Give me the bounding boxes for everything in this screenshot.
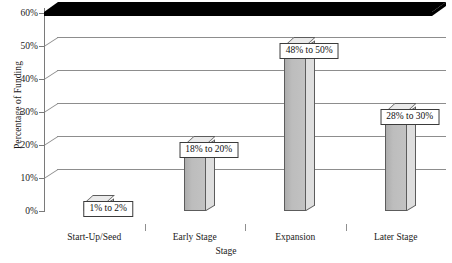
chart-floor: [44, 0, 446, 24]
gridline-riser: [44, 70, 58, 80]
y-axis-tick-label: 10%: [4, 173, 38, 183]
y-axis-tick-label: 40%: [4, 74, 38, 84]
x-axis-tick: [346, 224, 347, 231]
gridline-riser: [44, 136, 58, 146]
bar-front-face: [385, 112, 407, 211]
y-axis-tick-label: 30%: [4, 107, 38, 117]
gridline: [57, 103, 446, 104]
x-axis-category-label: Expansion: [275, 232, 315, 242]
y-axis-tick-labels: 0%10%20%30%40%50%60%: [0, 0, 38, 263]
bar-expansion: [284, 46, 306, 211]
bar-value-label: 1% to 2%: [84, 201, 133, 217]
y-axis-tick: [39, 79, 45, 80]
gridline-riser: [44, 37, 58, 47]
y-axis-tick: [39, 145, 45, 146]
y-axis-line: [44, 8, 45, 211]
x-axis-title: Stage: [0, 246, 452, 256]
bar-value-label: 18% to 20%: [179, 142, 238, 158]
y-axis-tick: [39, 112, 45, 113]
y-axis-tick-label: 20%: [4, 140, 38, 150]
y-axis-tick-label: 60%: [4, 8, 38, 18]
y-axis-tick: [39, 178, 45, 179]
y-axis-tick: [39, 46, 45, 47]
x-axis-tick: [145, 224, 146, 231]
bar-value-label: 28% to 30%: [380, 109, 439, 125]
x-axis-category-label: Early Stage: [173, 232, 217, 242]
x-axis-category-label: Start-Up/Seed: [67, 232, 121, 242]
gridline-riser: [44, 103, 58, 113]
x-axis: Start-Up/SeedEarly StageExpansionLater S…: [44, 224, 446, 248]
plot-area: 1% to 2%18% to 20%48% to 50%28% to 30%: [44, 8, 446, 213]
bar-value-label: 48% to 50%: [280, 43, 339, 59]
bar-side-face: [306, 40, 315, 211]
y-axis-tick-label: 0%: [4, 206, 38, 216]
y-axis-tick: [39, 211, 45, 212]
bar-front-face: [284, 46, 306, 211]
bar-later-stage: [385, 112, 407, 211]
bar-chart: Percentage of Funding 0%10%20%30%40%50%6…: [0, 0, 452, 263]
x-axis-tick: [245, 224, 246, 231]
x-axis-category-label: Later Stage: [374, 232, 418, 242]
gridline-riser: [44, 169, 58, 179]
gridline: [57, 70, 446, 71]
y-axis-tick-label: 50%: [4, 41, 38, 51]
gridline: [57, 37, 446, 38]
floor-polygon: [44, 0, 446, 24]
